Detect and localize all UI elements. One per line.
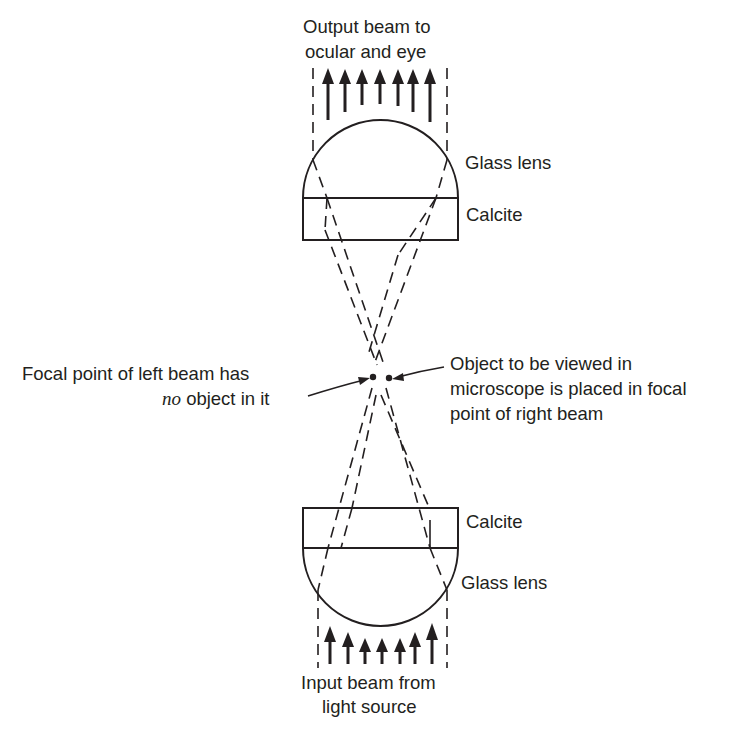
top-converging-rays	[313, 160, 447, 365]
right-beam-focal-point	[386, 375, 392, 381]
right-focal-label-line1: Object to be viewed in	[450, 353, 632, 374]
right-focal-pointer-line	[398, 367, 444, 377]
input-beam-label-line2: light source	[322, 696, 417, 717]
input-beam-label-line1: Input beam from	[301, 672, 436, 693]
output-beam-label-line2: ocular and eye	[305, 41, 426, 62]
left-focal-label-line2: no object in it	[162, 388, 269, 409]
output-beam-arrows	[322, 68, 436, 122]
microscope-ray-diagram: Output beam to ocular and eye Glass lens…	[0, 0, 756, 739]
left-focal-pointer-line	[308, 380, 364, 396]
no-emphasis: no	[162, 388, 181, 409]
right-focal-label-line3: point of right beam	[450, 403, 603, 424]
top-glass-lens	[303, 120, 458, 198]
right-focal-label-line2: microscope is placed in focal	[450, 378, 687, 399]
bottom-calcite-label: Calcite	[466, 511, 523, 532]
bottom-calcite-plate	[303, 508, 458, 548]
left-focal-label-rest: object in it	[181, 388, 269, 409]
input-beam-arrows	[324, 623, 438, 664]
left-focal-label-line1: Focal point of left beam has	[22, 363, 249, 384]
bottom-glass-lens-label: Glass lens	[461, 572, 547, 593]
output-beam-label-line1: Output beam to	[303, 16, 431, 37]
right-focal-pointer-arrowhead	[392, 373, 404, 381]
left-focal-pointer-arrowhead	[358, 377, 370, 385]
bottom-diverging-rays	[318, 388, 447, 590]
bottom-glass-lens	[303, 548, 458, 626]
top-glass-lens-label: Glass lens	[465, 152, 551, 173]
left-beam-focal-point	[370, 374, 376, 380]
top-calcite-label: Calcite	[466, 204, 523, 225]
